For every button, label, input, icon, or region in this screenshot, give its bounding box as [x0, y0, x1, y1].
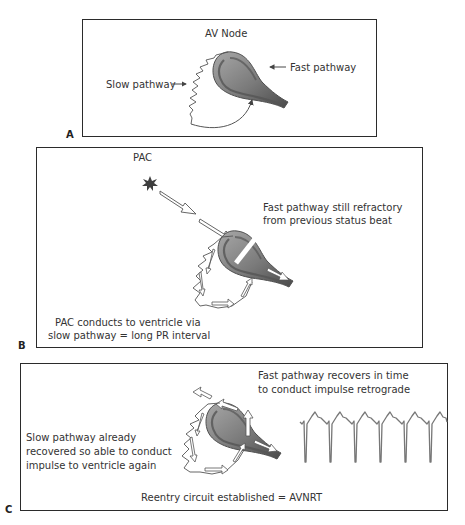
slow-to-fast-curve-a — [191, 100, 252, 128]
panel-b-graphics — [142, 176, 293, 308]
ecg-beat — [425, 412, 447, 462]
ecg-beat — [300, 412, 325, 462]
panel-c-graphics — [182, 387, 447, 474]
panel-a-graphics — [172, 52, 288, 128]
slow-arrow-b-3 — [212, 299, 234, 308]
ecg-beat — [375, 412, 400, 462]
ecg-tracing — [300, 412, 447, 462]
pac-arrow-1 — [160, 191, 196, 214]
pac-star-icon — [142, 176, 158, 191]
slow-arrow-c-1 — [195, 413, 204, 436]
ecg-beat — [325, 412, 350, 462]
ecg-beat — [400, 412, 425, 462]
diagram-graphics — [0, 0, 465, 525]
retrograde-exit-arrow — [193, 387, 212, 399]
ecg-beat — [350, 412, 375, 462]
av-node-shape-a — [213, 52, 288, 108]
slow-arrow-c-2 — [190, 437, 197, 462]
